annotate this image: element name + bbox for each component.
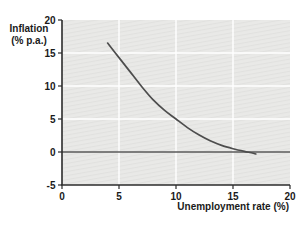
x-axis-title: Unemployment rate (%)	[177, 201, 289, 213]
y-tick-label-15: 15	[44, 48, 56, 59]
x-tick-label-20: 20	[284, 191, 296, 202]
x-tick-label-5: 5	[116, 191, 122, 202]
y-tick-label-5: 5	[50, 114, 56, 125]
y-axis-title-line1: Inflation	[5, 23, 53, 35]
y-tick-label--5: -5	[47, 180, 56, 191]
phillips-curve-figure: -50510152005101520 Inflation (% p.a.) Un…	[0, 0, 303, 226]
y-tick-label-0: 0	[50, 147, 56, 158]
x-tick-label-15: 15	[227, 191, 239, 202]
y-tick-label-10: 10	[44, 81, 56, 92]
y-axis-title-line2: (% p.a.)	[5, 35, 53, 47]
x-tick-label-10: 10	[170, 191, 182, 202]
y-axis-title: Inflation (% p.a.)	[5, 23, 53, 46]
x-tick-label-0: 0	[59, 191, 65, 202]
